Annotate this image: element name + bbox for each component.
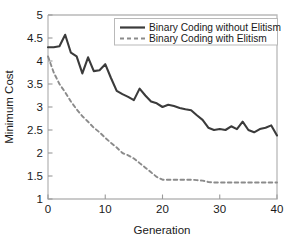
x-tick-label: 40 bbox=[271, 203, 284, 215]
legend-label-1: Binary Coding with Elitism bbox=[149, 33, 267, 44]
x-tick-label: 30 bbox=[213, 203, 226, 215]
y-tick-label: 3.5 bbox=[27, 78, 43, 90]
legend-label-0: Binary Coding without Elitism bbox=[149, 22, 281, 33]
x-tick-label: 0 bbox=[45, 203, 51, 215]
y-axis-title: Minimum Cost bbox=[3, 69, 15, 143]
y-axis-ticks: 11.522.533.544.55 bbox=[27, 9, 53, 205]
y-tick-label: 5 bbox=[37, 9, 43, 21]
y-tick-label: 4.5 bbox=[27, 32, 43, 44]
y-tick-label: 4 bbox=[37, 55, 44, 67]
line-chart: 11.522.533.544.55 010203040 Generation M… bbox=[0, 0, 302, 243]
x-tick-label: 20 bbox=[156, 203, 169, 215]
y-tick-label: 1 bbox=[37, 193, 43, 205]
y-tick-label: 2 bbox=[37, 147, 43, 159]
x-tick-label: 10 bbox=[99, 203, 112, 215]
chart-figure: 11.522.533.544.55 010203040 Generation M… bbox=[0, 0, 302, 243]
chart-legend: Binary Coding without Elitism Binary Cod… bbox=[115, 19, 281, 46]
y-tick-label: 2.5 bbox=[27, 124, 43, 136]
y-tick-label: 3 bbox=[37, 101, 43, 113]
y-tick-label: 1.5 bbox=[27, 170, 43, 182]
x-axis-title: Generation bbox=[134, 224, 191, 236]
